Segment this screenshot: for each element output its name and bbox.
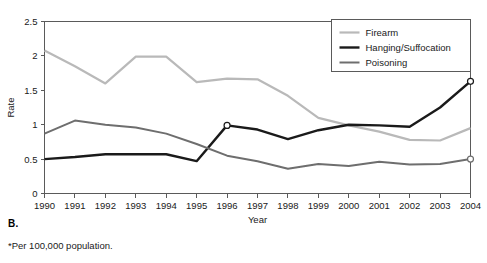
legend-label: Hanging/Suffocation bbox=[366, 42, 451, 53]
figure-panel-b: 00.511.522.51990199119921993199419951996… bbox=[0, 0, 487, 263]
x-tick-label: 1992 bbox=[95, 200, 116, 211]
x-tick-label: 1998 bbox=[277, 200, 298, 211]
x-axis-title: Year bbox=[248, 214, 267, 225]
line-chart: 00.511.522.51990199119921993199419951996… bbox=[0, 0, 487, 263]
x-tick-label: 2003 bbox=[430, 200, 451, 211]
x-tick-label: 1990 bbox=[34, 200, 55, 211]
figure-footnote: *Per 100,000 population. bbox=[8, 240, 113, 251]
series-line bbox=[45, 81, 471, 161]
x-tick-label: 1997 bbox=[247, 200, 268, 211]
x-tick-label: 1996 bbox=[217, 200, 238, 211]
x-tick-label: 1994 bbox=[156, 200, 177, 211]
x-tick-label: 1999 bbox=[308, 200, 329, 211]
y-tick-label: 0 bbox=[32, 188, 37, 199]
chart-legend: FirearmHanging/SuffocationPoisoning bbox=[332, 20, 471, 72]
data-point-marker bbox=[468, 156, 474, 162]
panel-label: B. bbox=[8, 218, 18, 229]
y-tick-label: 1.5 bbox=[24, 85, 37, 96]
data-point-marker bbox=[224, 122, 230, 128]
y-tick-label: 1 bbox=[32, 119, 37, 130]
legend-label: Firearm bbox=[366, 27, 399, 38]
y-tick-label: 2 bbox=[32, 50, 37, 61]
x-tick-label: 2004 bbox=[460, 200, 481, 211]
data-point-marker bbox=[468, 78, 474, 84]
legend-label: Poisoning bbox=[366, 57, 408, 68]
x-tick-label: 1991 bbox=[64, 200, 85, 211]
y-tick-label: 0.5 bbox=[24, 154, 37, 165]
y-tick-label: 2.5 bbox=[24, 16, 37, 27]
x-tick-label: 1993 bbox=[125, 200, 146, 211]
x-tick-label: 2002 bbox=[399, 200, 420, 211]
y-axis-title: Rate bbox=[5, 97, 16, 117]
x-tick-label: 2001 bbox=[369, 200, 390, 211]
x-tick-label: 2000 bbox=[338, 200, 359, 211]
x-tick-label: 1995 bbox=[186, 200, 207, 211]
